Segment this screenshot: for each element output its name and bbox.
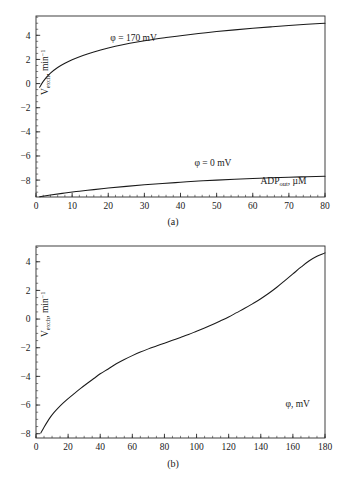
figure-container: 01020304050607080420−2−4−6−8Vexch, min−1… xyxy=(0,0,346,484)
x-tick-label: 60 xyxy=(248,201,258,211)
x-tick-label: 80 xyxy=(160,442,170,452)
x-tick-label: 20 xyxy=(63,442,73,452)
x-tick-label: 20 xyxy=(104,201,114,211)
x-tick-label: 0 xyxy=(34,442,39,452)
y-tick-label: −4 xyxy=(20,372,30,382)
y-tick-label: 2 xyxy=(26,55,31,65)
x-tick-label: 10 xyxy=(67,201,77,211)
y-tick-label: −2 xyxy=(20,103,30,113)
y-tick-label: −8 xyxy=(20,176,30,186)
y-axis-title: Vexch, min−1 xyxy=(39,49,51,95)
y-tick-label: 2 xyxy=(26,286,31,296)
y-tick-label: −6 xyxy=(20,151,30,161)
data-curve xyxy=(41,253,325,433)
curve-annotation-label: φ = 170 mV xyxy=(110,33,157,43)
y-tick-label: −8 xyxy=(20,429,30,439)
data-curve xyxy=(40,23,325,87)
x-tick-label: 70 xyxy=(284,201,294,211)
x-tick-label: 30 xyxy=(140,201,150,211)
x-tick-label: 0 xyxy=(34,201,39,211)
chart-panel-a: 01020304050607080420−2−4−6−8Vexch, min−1… xyxy=(0,0,346,242)
y-tick-label: 0 xyxy=(26,79,31,89)
plot-area-panel-b: 020406080100120140160180420−2−4−6−8Vexch… xyxy=(0,242,346,458)
y-axis-title: Vexch, min−1 xyxy=(39,291,51,337)
x-tick-label: 40 xyxy=(176,201,186,211)
chart-panel-b: 020406080100120140160180420−2−4−6−8Vexch… xyxy=(0,242,346,484)
y-tick-label: −4 xyxy=(20,127,30,137)
y-tick-label: 0 xyxy=(26,314,31,324)
y-tick-label: −6 xyxy=(20,400,30,410)
x-tick-label: 140 xyxy=(254,442,269,452)
y-tick-label: −2 xyxy=(20,343,30,353)
x-tick-label: 160 xyxy=(286,442,301,452)
x-tick-label: 40 xyxy=(95,442,105,452)
panel-b-caption: (b) xyxy=(0,458,346,469)
x-tick-label: 80 xyxy=(320,201,330,211)
y-tick-label: 4 xyxy=(26,257,31,267)
x-tick-label: 50 xyxy=(212,201,222,211)
x-tick-label: 120 xyxy=(222,442,237,452)
panel-a-caption: (a) xyxy=(0,216,346,227)
x-tick-label: 180 xyxy=(318,442,333,452)
curve-annotation-label: φ = 0 mV xyxy=(195,158,232,168)
y-tick-label: 4 xyxy=(26,31,31,41)
x-tick-label: 60 xyxy=(128,442,138,452)
x-axis-title: φ, mV xyxy=(285,399,310,409)
plot-area-panel-a: 01020304050607080420−2−4−6−8Vexch, min−1… xyxy=(0,0,346,216)
x-tick-label: 100 xyxy=(189,442,204,452)
